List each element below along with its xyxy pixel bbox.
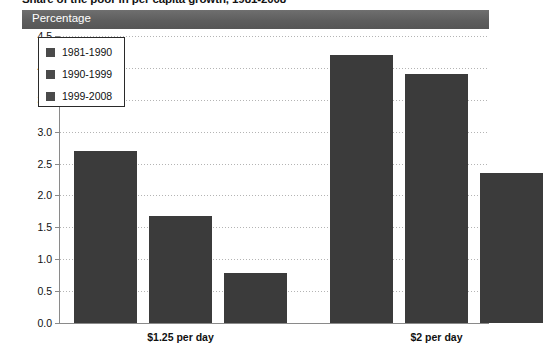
legend-swatch-icon bbox=[46, 70, 55, 79]
y-axis-tick-label: 1.0 bbox=[14, 253, 52, 265]
bar bbox=[224, 273, 287, 323]
bar bbox=[330, 55, 393, 323]
chart-legend: 1981-19901990-19991999-2008 bbox=[38, 37, 125, 107]
y-axis-tick-label: 3.0 bbox=[14, 126, 52, 138]
y-axis-tick-label: 2.5 bbox=[14, 158, 52, 170]
legend-item: 1999-2008 bbox=[46, 91, 112, 102]
y-axis-tick bbox=[55, 132, 60, 133]
legend-item-label: 1990-1999 bbox=[62, 69, 112, 80]
bar bbox=[405, 74, 468, 323]
legend-swatch-icon bbox=[46, 92, 55, 101]
y-axis-tick-label: 1.5 bbox=[14, 221, 52, 233]
y-axis-tick bbox=[55, 259, 60, 260]
page-title: Share of the poor in per capita growth, … bbox=[22, 0, 286, 5]
x-axis-line bbox=[59, 323, 489, 324]
legend-item-label: 1981-1990 bbox=[62, 47, 112, 58]
y-axis-tick-label: 0.5 bbox=[14, 285, 52, 297]
y-axis-tick bbox=[55, 227, 60, 228]
bar bbox=[480, 173, 543, 323]
bar bbox=[74, 151, 137, 323]
legend-item: 1990-1999 bbox=[46, 69, 112, 80]
y-axis-tick bbox=[55, 291, 60, 292]
header-band: Percentage bbox=[22, 10, 489, 29]
legend-item-label: 1999-2008 bbox=[62, 91, 112, 102]
x-axis-category-label: $2 per day bbox=[411, 331, 463, 343]
legend-swatch-icon bbox=[46, 48, 55, 57]
y-axis-tick-label: 2.0 bbox=[14, 189, 52, 201]
y-axis-tick-label: 0.0 bbox=[14, 317, 52, 329]
axis-unit-label: Percentage bbox=[32, 12, 91, 24]
y-axis-tick bbox=[55, 164, 60, 165]
x-axis-category-label: $1.25 per day bbox=[147, 331, 214, 343]
bar bbox=[149, 216, 212, 323]
y-axis-tick bbox=[55, 323, 60, 324]
y-axis-tick bbox=[55, 195, 60, 196]
legend-item: 1981-1990 bbox=[46, 47, 112, 58]
